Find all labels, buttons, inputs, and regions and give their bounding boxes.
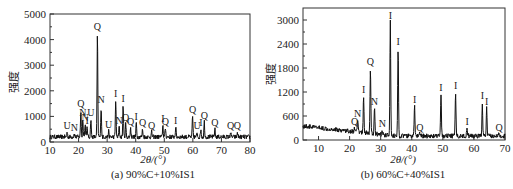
chart-b-xlabel: 2θ/(°) (390, 153, 416, 166)
chart-b-svg: 1020304050607006001200180024003000QNIQNN… (258, 0, 513, 189)
peak-label: I (439, 82, 442, 93)
peak-label: I (389, 10, 392, 21)
peak-label: Q (189, 104, 197, 115)
plot-frame (303, 8, 505, 140)
peak-label: Q (148, 120, 156, 131)
y-tick-label: 1800 (277, 62, 300, 74)
x-tick-label: 80 (245, 144, 257, 156)
chart-b-caption: (b) 60%C+40%IS1 (361, 168, 446, 181)
peak-label: Q (201, 110, 209, 121)
peak-label: I (465, 116, 468, 127)
y-tick-label: 2000 (24, 85, 47, 97)
x-tick-label: 60 (468, 142, 480, 154)
peak-label: N (98, 94, 105, 105)
y-tick-label: 1000 (24, 110, 47, 122)
peak-label: I (481, 90, 484, 101)
peak-label: I (362, 84, 365, 95)
peak-label: Q (367, 56, 375, 67)
chart-a-caption: (a) 90%C+10%IS1 (111, 168, 195, 181)
peak-label: Q (162, 116, 170, 127)
y-tick-label: 4000 (24, 34, 47, 46)
xrd-pattern-line (303, 20, 505, 138)
chart-a-xlabel: 2θ/(°) (140, 153, 166, 166)
peak-label: Q (211, 117, 219, 128)
y-tick-label: 600 (283, 110, 300, 122)
peak-label: I (413, 94, 416, 105)
peak-label: Q (234, 120, 242, 131)
peak-label: U (87, 107, 95, 118)
xrd-chart-a: 1020304050607080010002000300040005000UNQ… (0, 0, 258, 189)
peak-label: Q (94, 21, 102, 32)
x-tick-label: 10 (45, 144, 57, 156)
chart-b-ylabel: 强度 (264, 63, 277, 85)
y-tick-label: 2400 (277, 38, 300, 50)
chart-a-ylabel: 强度 (7, 71, 20, 93)
peak-label: I (121, 93, 124, 104)
peak-label: Q (139, 117, 147, 128)
peak-label: Q (495, 122, 503, 133)
y-tick-label: 1200 (277, 86, 300, 98)
y-tick-label: 3000 (277, 14, 300, 26)
chart-a-svg: 1020304050607080010002000300040005000UNQ… (0, 0, 258, 189)
xrd-chart-b: 1020304050607006001200180024003000QNIQNN… (258, 0, 513, 189)
x-tick-label: 50 (437, 142, 449, 154)
x-tick-label: 20 (344, 142, 356, 154)
x-tick-label: 10 (313, 142, 325, 154)
peak-label: I (454, 80, 457, 91)
y-tick-label: 5000 (24, 8, 47, 20)
peak-label: I (174, 115, 177, 126)
x-tick-label: 30 (375, 142, 387, 154)
y-tick-label: 3000 (24, 59, 47, 71)
peak-label: U (105, 119, 113, 130)
peak-label: Q (416, 122, 424, 133)
peak-label: I (396, 36, 399, 47)
peak-label: N (354, 108, 361, 119)
y-tick-label: 0 (294, 134, 300, 146)
x-tick-label: 30 (102, 144, 114, 156)
peak-label: N (371, 96, 378, 107)
peak-label: N (71, 122, 78, 133)
peak-label: N (379, 118, 386, 129)
peak-label: I (135, 111, 138, 122)
peak-label: I (114, 88, 117, 99)
x-tick-label: 60 (187, 144, 199, 156)
y-tick-label: 0 (41, 136, 47, 148)
x-tick-label: 70 (500, 142, 512, 154)
peak-label: I (485, 96, 488, 107)
x-tick-label: 20 (73, 144, 85, 156)
x-tick-label: 70 (216, 144, 228, 156)
